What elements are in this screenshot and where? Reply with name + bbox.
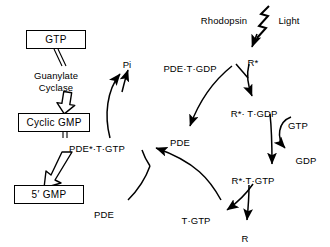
guanylate-line-2: Cyclase bbox=[34, 82, 78, 94]
association-arc bbox=[156, 148, 221, 200]
hollow-arrow-icon-hydrolysis bbox=[44, 152, 72, 188]
cyclic-gmp-tick bbox=[63, 132, 67, 138]
junction-stub bbox=[142, 150, 150, 166]
rstar-to-rstar-t-gdp-arrow bbox=[248, 64, 252, 96]
diagram-canvas: GTP Cyclic GMP 5′ GMP Guanylate Cyclase … bbox=[0, 0, 330, 247]
label-r-star-t-gtp: R*·T·GTP bbox=[231, 175, 274, 186]
label-rhodopsin: Rhodopsin bbox=[201, 15, 247, 26]
pi-release-arrow bbox=[122, 70, 128, 92]
label-pde-t-gdp: PDE·T·GDP bbox=[163, 63, 216, 74]
left-cycle-arc-up bbox=[107, 74, 120, 138]
label-t-gtp: T·GTP bbox=[182, 215, 211, 226]
label-pde-bottom: PDE bbox=[94, 209, 114, 220]
label-r-star: R* bbox=[248, 57, 259, 68]
label-r-star-t-gdp: R*· T·GDP bbox=[231, 108, 278, 119]
label-gdp-right: GDP bbox=[296, 155, 317, 166]
species-box-5-prime-gmp: 5′ GMP bbox=[14, 185, 84, 204]
lightning-bolt-icon bbox=[252, 6, 269, 47]
pdetgdp-to-pde-arc bbox=[190, 66, 232, 126]
gdp-to-gtp-exchange-arrow bbox=[270, 114, 272, 164]
rstar-hook bbox=[236, 64, 248, 78]
species-box-cyclic-gmp: Cyclic GMP bbox=[18, 113, 90, 132]
label-pde-star-t-gtp: PDE*·T·GTP bbox=[69, 143, 125, 154]
label-gtp-right: GTP bbox=[288, 120, 308, 131]
species-box-gtp: GTP bbox=[26, 30, 86, 49]
label-guanylate-cyclase: Guanylate Cyclase bbox=[34, 70, 78, 94]
label-r-bottom: R bbox=[242, 233, 249, 244]
hollow-arrow-icon-cyclase bbox=[55, 91, 76, 116]
pde-bottom-connector bbox=[128, 166, 150, 200]
label-pde-middle: PDE bbox=[170, 137, 190, 148]
guanylate-line-1: Guanylate bbox=[34, 70, 78, 82]
label-pi: Pi bbox=[123, 59, 132, 70]
label-light: Light bbox=[278, 15, 299, 26]
gtp-to-cyclase-connector bbox=[54, 49, 66, 66]
